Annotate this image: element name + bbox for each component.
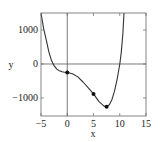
x-tick-label: 15	[141, 118, 151, 129]
y-tick-label: −1000	[12, 92, 38, 103]
y-tick-label: 0	[33, 58, 38, 69]
plot-frame	[41, 13, 146, 116]
data-point-marker	[65, 70, 69, 74]
x-tick-label: 10	[115, 118, 125, 129]
x-axis-label: x	[91, 128, 96, 139]
data-curve	[41, 13, 124, 107]
y-axis-label: y	[9, 59, 14, 70]
y-tick-label: 1000	[18, 24, 38, 35]
x-tick-label: −5	[36, 118, 47, 129]
x-tick-label: 0	[65, 118, 70, 129]
data-point-marker	[105, 105, 109, 109]
plot-area	[41, 13, 146, 116]
chart: −505101510000−1000 x y	[0, 0, 162, 142]
data-point-marker	[92, 92, 96, 96]
axis-ticks: −505101510000−1000	[12, 13, 151, 129]
